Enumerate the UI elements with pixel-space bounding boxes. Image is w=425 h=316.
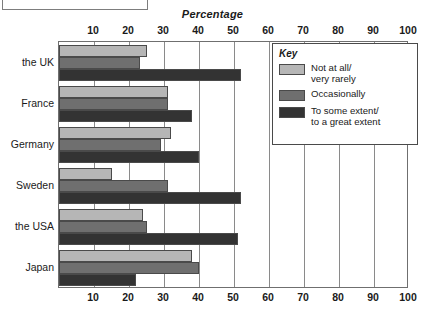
bar: [59, 168, 112, 180]
tick-label-60: 60: [262, 24, 274, 36]
tick-label-10: 10: [87, 291, 99, 303]
bar: [59, 274, 136, 286]
chart-legend: Key Not at all/ very rarelyOccasionallyT…: [272, 43, 418, 145]
bar: [59, 57, 140, 69]
bar: [59, 233, 238, 245]
legend-entries: Not at all/ very rarelyOccasionallyTo so…: [279, 62, 412, 127]
legend-item: To some extent/ to a great extent: [279, 105, 412, 127]
bar-group: [59, 250, 407, 286]
bar: [59, 180, 168, 192]
tick-label-10: 10: [87, 24, 99, 36]
tick-label-20: 20: [122, 24, 134, 36]
bar-group: [59, 209, 407, 245]
legend-item: Occasionally: [279, 88, 412, 101]
x-axis-ticks-top: 102030405060708090100: [58, 24, 408, 38]
bar: [59, 151, 199, 163]
tick-label-80: 80: [332, 24, 344, 36]
legend-title: Key: [279, 48, 412, 59]
tick-label-30: 30: [157, 24, 169, 36]
bar: [59, 209, 143, 221]
tick-label-100: 100: [399, 24, 417, 36]
chart-title: Percentage: [0, 8, 425, 20]
bar: [59, 127, 171, 139]
legend-swatch-icon: [279, 64, 305, 75]
tick-label-40: 40: [192, 24, 204, 36]
legend-label: Occasionally: [311, 88, 365, 99]
bar: [59, 45, 147, 57]
category-label: Sweden: [16, 179, 54, 191]
tick-label-100: 100: [399, 291, 417, 303]
bar: [59, 98, 168, 110]
bar: [59, 262, 199, 274]
tick-label-50: 50: [227, 24, 239, 36]
tick-label-20: 20: [122, 291, 134, 303]
bar: [59, 250, 192, 262]
legend-label: Not at all/ very rarely: [311, 62, 356, 84]
bar: [59, 221, 147, 233]
tick-label-40: 40: [192, 291, 204, 303]
legend-item: Not at all/ very rarely: [279, 62, 412, 84]
x-axis-ticks-bottom: 102030405060708090100: [58, 291, 408, 305]
category-label: France: [21, 97, 54, 109]
tick-label-50: 50: [227, 291, 239, 303]
category-label: Japan: [25, 261, 54, 273]
bar-group: [59, 168, 407, 204]
bar: [59, 139, 161, 151]
category-label: Germany: [11, 138, 54, 150]
legend-label: To some extent/ to a great extent: [311, 105, 380, 127]
tick-label-90: 90: [367, 24, 379, 36]
tick-label-90: 90: [367, 291, 379, 303]
bar: [59, 86, 168, 98]
bar: [59, 192, 241, 204]
category-axis-labels: the UKFranceGermanySwedenthe USAJapan: [0, 41, 54, 288]
legend-swatch-icon: [279, 107, 305, 118]
category-label: the USA: [15, 220, 54, 232]
category-label: the UK: [22, 56, 54, 68]
tick-label-60: 60: [262, 291, 274, 303]
bar: [59, 110, 192, 122]
tick-label-80: 80: [332, 291, 344, 303]
bar: [59, 69, 241, 81]
legend-swatch-icon: [279, 90, 305, 101]
tick-label-30: 30: [157, 291, 169, 303]
tick-label-70: 70: [297, 291, 309, 303]
tick-label-70: 70: [297, 24, 309, 36]
